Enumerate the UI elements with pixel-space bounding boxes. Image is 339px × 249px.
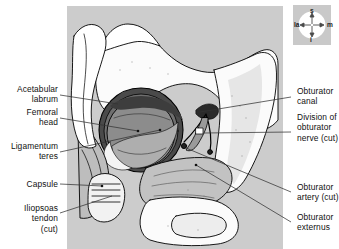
label-femoral-head: Femoral head (0, 107, 58, 128)
ischial-tuberosity (172, 213, 227, 238)
label-obturator-artery: Obturator artery (cut) (297, 182, 339, 203)
dot-capsule (101, 185, 104, 188)
nerve-cut-marker (196, 128, 203, 134)
compass-label-inferior: i (310, 36, 312, 43)
vessel-stump-a (181, 143, 186, 148)
label-capsule: Capsule (0, 179, 58, 189)
obturator-artery-vessel (186, 118, 208, 151)
leader-obturator-nerve (204, 132, 291, 133)
label-obturator-externus: Obturator externus (297, 212, 339, 233)
label-acetabular-labrum: Acetabular labrum (0, 84, 58, 105)
compass-label-medial: m (327, 21, 333, 28)
vessel-stump-b (208, 150, 213, 155)
label-division-obturator-nerve: Division of obturator nerve (cut) (297, 112, 339, 143)
label-obturator-canal: Obturator canal (297, 86, 339, 107)
compass-label-superior: s (310, 7, 314, 14)
dot-ligamentum-teres (159, 129, 162, 132)
figure-root: s i la m Acetabular labrum Femoral head … (0, 0, 339, 249)
compass-label-lateral: la (294, 21, 300, 28)
orientation-compass (299, 12, 326, 39)
dot-obturator-externus (195, 164, 198, 167)
dot-femoral-head (137, 130, 140, 133)
label-ligamentum-teres: Ligamentum teres (0, 141, 58, 162)
label-iliopsoas-tendon: Iliopsoas tendon (cut) (0, 203, 58, 234)
